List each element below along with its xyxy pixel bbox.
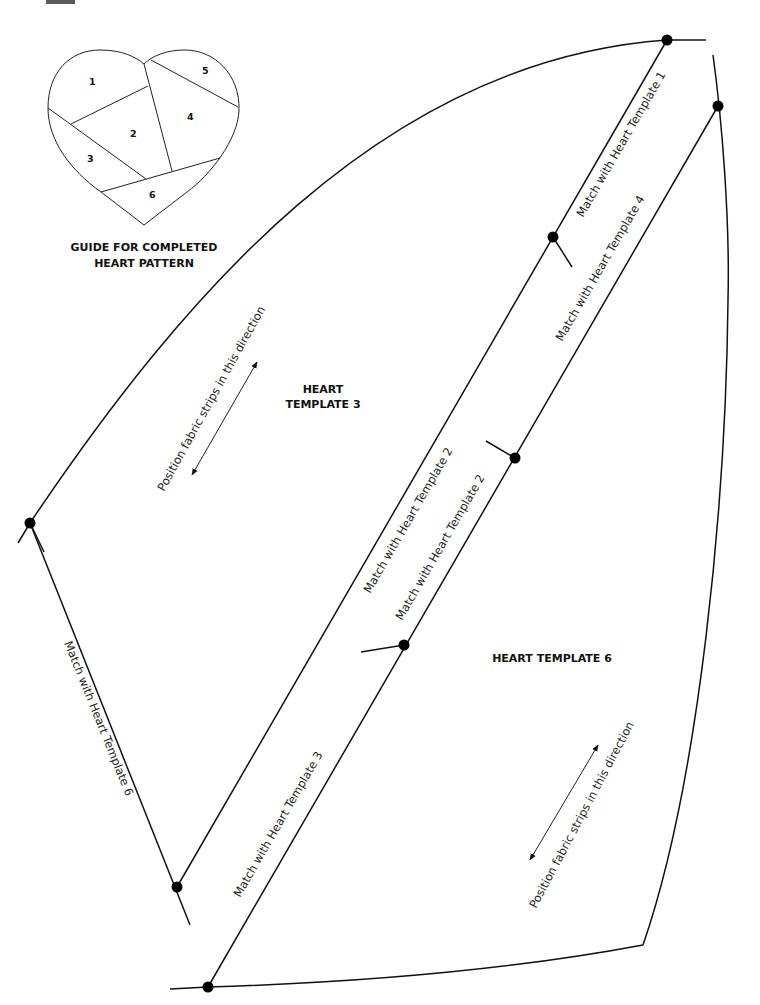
match-dot [510,453,521,464]
match-dots [25,35,724,993]
template-outlines [18,40,728,989]
template6-label: HEART TEMPLATE 6 [492,652,612,665]
guide-title-line2: HEART PATTERN [94,257,194,270]
guide-title-line1: GUIDE FOR COMPLETED [71,241,218,254]
heart-piece-6: 6 [149,189,156,200]
seam-template2-template6 [208,106,718,987]
top-curve-edge [18,40,706,543]
edge-label-template6: Match with Heart Template 6 [61,639,136,798]
heart-piece-3: 3 [87,153,94,164]
pattern-sheet: 1 2 3 4 5 6 GUIDE FOR COMPLETED HEART PA… [0,0,760,1005]
grain-label-template6: Position fabric strips in this direction [526,719,637,910]
edge-label-template4: Match with Heart Template 4 [552,193,647,344]
match-dot [203,982,214,993]
edge-label-template3: Match with Heart Template 3 [230,749,325,900]
heart-piece-5: 5 [202,65,209,76]
heart-piece-4: 4 [187,111,194,122]
right-curve-edge [643,55,728,945]
edge-label-template2-b: Match with Heart Template 2 [392,472,487,623]
heart-seam [71,86,148,124]
template3-label-line1: HEART [303,383,344,396]
match-dot [172,882,183,893]
notch-tick [361,645,404,652]
match-dot [662,35,673,46]
heart-seam [144,64,172,171]
heart-outline [48,50,239,225]
match-dot [548,232,559,243]
match-dot [399,640,410,651]
bottom-curve-edge [170,945,643,989]
guide-heart: 1 2 3 4 5 6 GUIDE FOR COMPLETED HEART PA… [48,50,239,270]
edge-label-template1: Match with Heart Template 1 [573,69,668,220]
match-dot [713,101,724,112]
heart-piece-2: 2 [130,128,137,139]
heart-seam [101,158,220,192]
edge-label-template2-a: Match with Heart Template 2 [360,445,455,596]
heart-piece-1: 1 [89,76,96,87]
grain-direction-template3: Position fabric strips in this direction [154,304,268,494]
match-dot [25,518,36,529]
template3-label-line2: TEMPLATE 3 [285,398,360,411]
heart-seam [151,60,238,107]
grain-direction-template6: Position fabric strips in this direction [526,719,637,910]
seam-template3-template2 [177,40,667,887]
grain-label-template3: Position fabric strips in this direction [154,304,268,494]
left-edge-template6 [30,523,190,925]
heart-seam [48,108,146,179]
